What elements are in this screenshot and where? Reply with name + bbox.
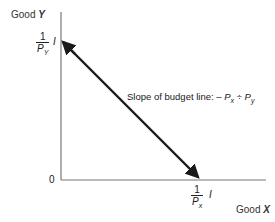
x-intercept-denominator: Px [191, 195, 203, 211]
slope-label-minus: – [216, 91, 221, 102]
origin-label: 0 [49, 174, 55, 185]
x-intercept-income: I [209, 189, 212, 200]
budget-line [63, 42, 198, 177]
y-intercept-income: I [53, 36, 56, 47]
x-axis-label-prefix: Good [236, 204, 260, 215]
slope-label-prefix: Slope of budget line: [127, 91, 214, 102]
slope-label: Slope of budget line: – Px ÷ Py [127, 91, 254, 104]
y-intercept-numerator: 1 [39, 31, 47, 42]
x-intercept-numerator: 1 [193, 184, 201, 195]
x-intercept-fraction: 1 Px [191, 184, 203, 211]
slope-label-divide: ÷ [237, 91, 242, 102]
slope-px-sub: x [231, 97, 235, 104]
x-axis-label: Good X [236, 204, 270, 215]
x-intercept-denominator-base: P [192, 196, 199, 207]
x-axis-label-var: X [263, 204, 270, 215]
y-intercept-denominator-sub: Y [44, 49, 49, 56]
y-axis-label-var: Y [38, 9, 45, 20]
y-intercept-denominator-base: P [37, 43, 44, 54]
y-axis-label-prefix: Good [11, 9, 35, 20]
y-intercept-denominator: PY [36, 42, 49, 58]
slope-py-sub: y [251, 97, 255, 104]
y-intercept-fraction: 1 PY [36, 31, 49, 58]
budget-line-start-arrow [63, 42, 75, 54]
y-axis-label: Good Y [11, 9, 45, 20]
x-intercept-denominator-sub: x [199, 202, 203, 209]
